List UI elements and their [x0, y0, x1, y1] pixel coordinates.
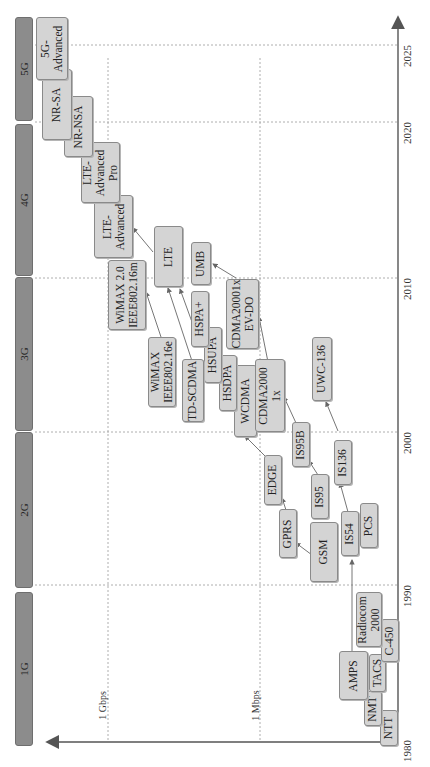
generation-label: 4G: [18, 193, 30, 206]
year-label-2010: 2010: [401, 278, 413, 300]
generation-1g: 1G: [15, 592, 33, 746]
generation-label: 3G: [18, 347, 30, 360]
node-is136: IS136: [334, 440, 352, 485]
node-umb: UMB: [191, 242, 211, 285]
node-uwc-136: UWC-136: [312, 337, 332, 401]
node-hspa-plus: HSPA+: [191, 291, 209, 347]
node-cdma2000-1x: CDMA2000 1x: [255, 359, 285, 432]
node-is95b: IS95B: [292, 422, 310, 467]
year-label-2025: 2025: [401, 45, 413, 67]
node-lte-advanced: LTE- Advanced: [94, 195, 133, 258]
node-gsm: GSM: [310, 522, 338, 582]
node-ntt: NTT: [380, 710, 398, 746]
node-wimax-16e: WiMAX IEEE802.16e: [148, 337, 176, 407]
rate-label-1mbps: 1 Mbps: [250, 690, 261, 720]
node-wcdma: WCDMA: [234, 365, 257, 437]
node-lte: LTE: [154, 226, 183, 287]
node-pcs: PCS: [360, 503, 378, 548]
year-label-2000: 2000: [401, 432, 413, 454]
node-amps: AMPS: [339, 651, 368, 700]
generation-label: 5G: [18, 62, 30, 75]
generation-4g: 4G: [15, 124, 33, 276]
generation-label: 2G: [18, 503, 30, 516]
generation-3g: 3G: [15, 277, 33, 431]
node-is54: IS54: [341, 511, 359, 556]
year-label-1990: 1990: [401, 585, 413, 607]
node-gprs: GPRS: [279, 509, 297, 558]
node-c450: C-450: [381, 619, 399, 662]
generation-2g: 2G: [15, 432, 33, 588]
year-label-2020: 2020: [401, 122, 413, 144]
node-cdma2000-evdo: CDMA20001x EV-DO: [226, 279, 259, 349]
node-edge: EDGE: [264, 455, 282, 505]
node-td-scdma: TD-SCDMA: [182, 359, 204, 422]
rate-label-1gbps: 1 Gbps: [97, 691, 108, 720]
node-is95: IS95: [311, 474, 329, 519]
generation-5g: 5G: [15, 17, 33, 121]
node-wimax-2: WiMAX 2.0 IEEE802.16m: [108, 260, 146, 330]
year-label-1980: 1980: [401, 740, 413, 762]
node-radiocom-2000: Radiocom 2000: [356, 592, 382, 647]
node-5g-advanced: 5G- Advanced: [36, 17, 68, 80]
generation-label: 1G: [18, 662, 30, 675]
